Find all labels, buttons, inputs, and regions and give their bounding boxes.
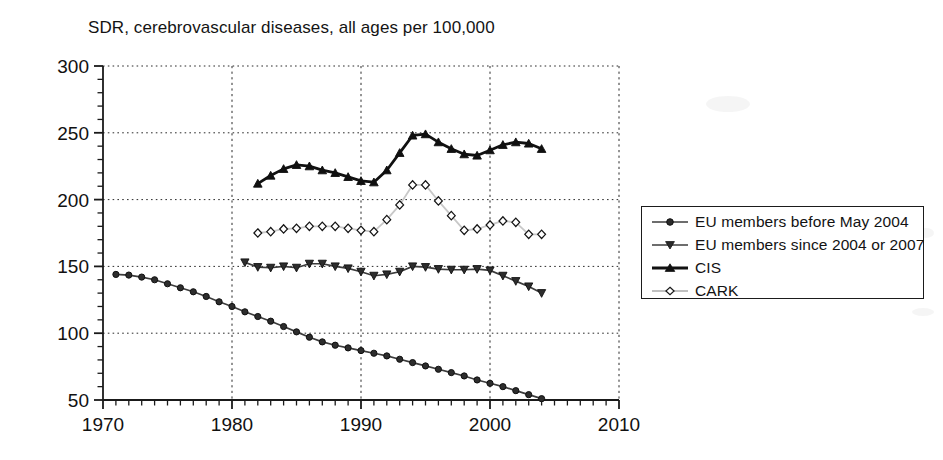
svg-text:1970: 1970	[82, 414, 124, 435]
scan-artifact	[706, 96, 750, 112]
svg-text:2010: 2010	[598, 414, 640, 435]
series-cis	[254, 130, 546, 187]
series-cark	[254, 181, 546, 239]
circle-filled-icon	[651, 215, 689, 229]
triangle-down-filled-icon	[651, 238, 689, 252]
legend-item-eu-since-2004: EU members since 2004 or 2007	[642, 233, 923, 256]
svg-text:200: 200	[57, 190, 89, 211]
legend-label: CIS	[695, 259, 721, 277]
data-series-layer	[113, 130, 546, 402]
legend-item-cark: CARK	[642, 279, 923, 302]
legend-item-cis: CIS	[642, 256, 923, 279]
axis-tick-labels: 5010015020025030019701980199020002010	[57, 56, 640, 435]
svg-text:300: 300	[57, 56, 89, 77]
svg-text:150: 150	[57, 256, 89, 277]
chart-legend: EU members before May 2004 EU members si…	[641, 206, 924, 299]
legend-label: EU members since 2004 or 2007	[695, 236, 925, 254]
svg-text:1990: 1990	[340, 414, 382, 435]
legend-label: EU members before May 2004	[695, 213, 909, 231]
svg-text:50: 50	[68, 390, 89, 411]
legend-label: CARK	[695, 282, 738, 300]
svg-text:1980: 1980	[211, 414, 253, 435]
svg-text:250: 250	[57, 123, 89, 144]
svg-text:2000: 2000	[469, 414, 511, 435]
triangle-up-filled-icon	[651, 261, 689, 275]
svg-text:100: 100	[57, 323, 89, 344]
legend-item-eu-before-2004: EU members before May 2004	[642, 210, 923, 233]
series-eu-members-since-2004-or-2007	[241, 259, 546, 297]
scan-artifact	[912, 308, 934, 316]
series-eu-members-before-may-2004	[113, 271, 545, 401]
diamond-open-icon	[651, 284, 689, 298]
chart-container: SDR, cerebrovascular diseases, all ages …	[0, 0, 943, 460]
